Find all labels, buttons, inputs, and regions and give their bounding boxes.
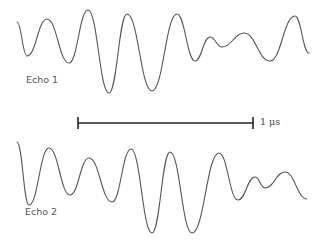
scale-bar-label: 1 μs xyxy=(260,116,280,127)
echo-2-label: Echo 2 xyxy=(25,206,57,217)
echo-2-waveform xyxy=(17,142,307,233)
echo-1-label: Echo 1 xyxy=(26,74,58,85)
scale-bar xyxy=(78,117,253,129)
echo-1-waveform xyxy=(17,10,309,93)
